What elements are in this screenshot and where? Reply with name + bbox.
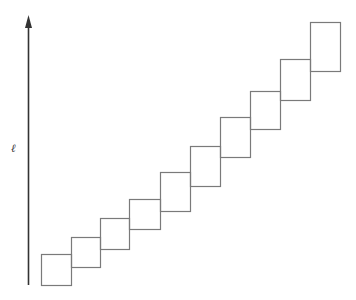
box-1 <box>42 255 72 286</box>
box-10 <box>311 23 341 72</box>
box-4 <box>130 200 161 230</box>
staircase-diagram <box>0 0 356 300</box>
box-8 <box>251 92 281 130</box>
box-5 <box>161 173 191 212</box>
vertical-axis-arrow <box>25 15 32 285</box>
box-6 <box>191 147 221 187</box>
axis-label-ell: ℓ <box>11 143 16 154</box>
box-7 <box>221 118 251 158</box>
box-3 <box>101 219 130 250</box>
box-staircase <box>42 23 341 286</box>
box-2 <box>72 238 101 268</box>
box-9 <box>281 60 311 101</box>
arrowhead-up-icon <box>25 15 32 28</box>
